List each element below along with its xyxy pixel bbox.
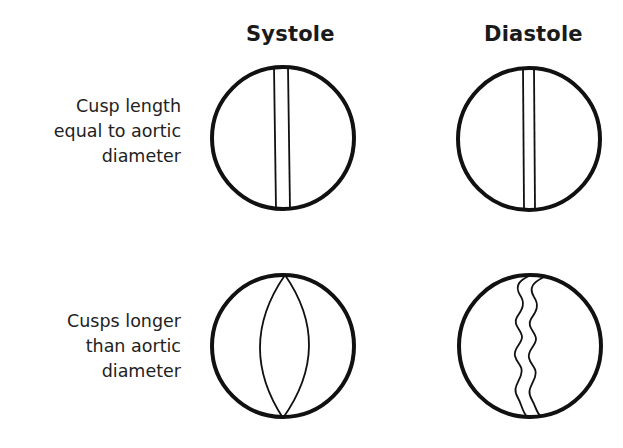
aortic-ring-icon — [212, 67, 354, 209]
valve-systole-equal — [212, 67, 354, 210]
valve-diastole-equal — [458, 68, 600, 210]
valve-diagram — [0, 0, 623, 448]
aortic-ring-icon — [212, 275, 354, 417]
cusp-line-icon — [534, 68, 535, 210]
aortic-ring-icon — [458, 68, 600, 210]
cusp-wavy-icon — [529, 277, 544, 417]
valve-systole-longer — [212, 275, 354, 418]
cusp-arc-icon — [260, 275, 285, 418]
cusp-line-icon — [288, 67, 290, 210]
cusp-line-icon — [523, 68, 524, 210]
cusp-wavy-icon — [515, 275, 531, 418]
valve-diastole-longer — [459, 275, 601, 418]
cusp-line-icon — [274, 67, 276, 210]
cusp-arc-icon — [283, 275, 309, 418]
